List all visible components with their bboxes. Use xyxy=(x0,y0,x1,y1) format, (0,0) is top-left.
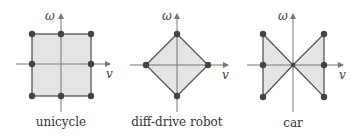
v-label: v xyxy=(222,68,229,82)
panel-unicycle: ω v unicycle xyxy=(16,9,113,129)
panel-label: unicycle xyxy=(36,115,86,129)
omega-label: ω xyxy=(45,9,55,23)
v-label: v xyxy=(106,67,113,81)
panel-diff-drive: ω v diff-drive robot xyxy=(130,9,229,129)
omega-label: ω xyxy=(162,9,172,23)
omega-label: ω xyxy=(278,9,288,23)
panel-label: diff-drive robot xyxy=(131,115,222,129)
v-label: v xyxy=(339,68,346,82)
panel-car: ω v car xyxy=(247,9,346,130)
panel-label: car xyxy=(283,116,303,130)
control-sets-diagram: ω v unicycle ω v diff-drive robot ω v ca… xyxy=(0,0,362,136)
